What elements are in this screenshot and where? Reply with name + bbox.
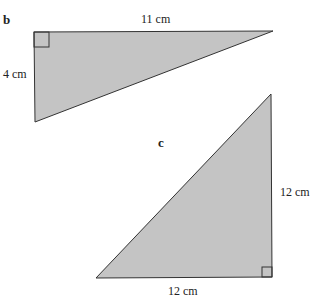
side-length-left-b: 4 cm <box>3 68 27 80</box>
side-length-bottom-c: 12 cm <box>168 285 198 297</box>
figure-label-b: b <box>3 13 10 26</box>
side-length-right-c: 12 cm <box>280 186 310 198</box>
figure-label-c: c <box>158 136 164 149</box>
diagram-canvas <box>0 0 317 300</box>
triangle-b <box>34 31 273 122</box>
triangle-c <box>96 94 272 278</box>
side-length-top-b: 11 cm <box>141 13 170 25</box>
